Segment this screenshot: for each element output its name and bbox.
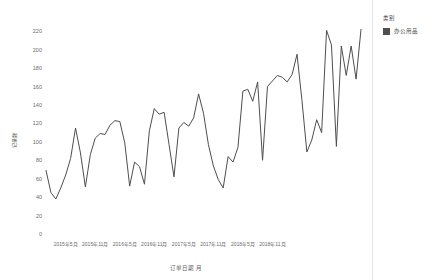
x-axis-tick-label: 2016年11月 xyxy=(141,240,167,247)
x-axis-tick-label: 2015年11月 xyxy=(82,240,108,247)
legend: 类别 办公用品 xyxy=(372,0,436,280)
chart-page: 记录数 020406080100120140160180200220 2015年… xyxy=(0,0,436,280)
y-axis-tick-label: 200 xyxy=(33,47,42,53)
x-axis-tick-label: 2017年5月 xyxy=(172,240,196,247)
y-axis-tick-label: 80 xyxy=(36,157,42,163)
y-axis-tick-label: 60 xyxy=(36,176,42,182)
plot-region: 020406080100120140160180200220 2015年5月20… xyxy=(46,22,361,234)
y-axis-tick-label: 0 xyxy=(39,231,42,237)
series-line-office-supplies xyxy=(46,29,361,199)
y-axis-tick-label: 40 xyxy=(36,194,42,200)
y-axis-tick-label: 220 xyxy=(33,28,42,34)
x-axis-tick-label: 2015年5月 xyxy=(54,240,78,247)
line-series-svg xyxy=(46,22,361,234)
legend-title: 类别 xyxy=(383,14,436,22)
y-axis-tick-label: 180 xyxy=(33,65,42,71)
legend-item-office-supplies[interactable]: 办公用品 xyxy=(383,27,436,35)
y-axis-tick-label: 140 xyxy=(33,102,42,108)
x-axis-tick-label: 2017年11月 xyxy=(200,240,226,247)
legend-swatch-icon xyxy=(383,28,390,35)
x-axis-tick-label: 2018年11月 xyxy=(259,240,285,247)
y-axis-title: 记录数 xyxy=(10,133,17,148)
x-axis-tick-label: 2016年5月 xyxy=(113,240,137,247)
y-axis-tick-label: 120 xyxy=(33,120,42,126)
x-axis-tick-label: 2018年5月 xyxy=(231,240,255,247)
x-axis-title: 订单日期 月 xyxy=(0,264,372,272)
y-axis-tick-label: 100 xyxy=(33,139,42,145)
y-axis-tick-label: 160 xyxy=(33,84,42,90)
y-axis-tick-label: 20 xyxy=(36,213,42,219)
legend-item-label: 办公用品 xyxy=(394,27,418,35)
chart-area: 记录数 020406080100120140160180200220 2015年… xyxy=(0,0,372,280)
